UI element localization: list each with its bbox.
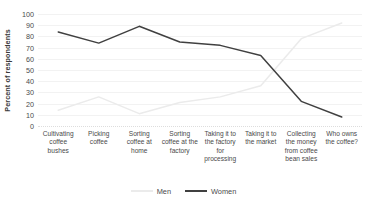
y-axis-tick-label: 50	[26, 66, 34, 75]
line-chart: Percent of respondents 01020304050607080…	[0, 0, 367, 205]
y-axis-tick-labels: 0102030405060708090100	[14, 14, 36, 126]
x-axis-category-label: Picking coffee	[79, 130, 120, 178]
legend-line-swatch	[131, 190, 153, 192]
legend-label: Women	[211, 187, 236, 196]
y-axis-tick-label: 20	[26, 99, 34, 108]
y-axis-tick-label: 90	[26, 21, 34, 30]
legend-item-men[interactable]: Men	[131, 187, 171, 196]
x-axis-category-label: Cultivating coffee bushes	[38, 130, 79, 178]
plot-area	[38, 14, 362, 126]
y-axis-title-text: Percent of respondents	[3, 29, 12, 111]
y-axis-title: Percent of respondents	[0, 0, 14, 140]
y-axis-tick-label: 70	[26, 43, 34, 52]
x-axis-category-label: Who owns the coffee?	[322, 130, 363, 178]
legend-label: Men	[157, 187, 171, 196]
y-axis-tick-label: 100	[22, 10, 34, 19]
x-axis-category-label: Sorting coffee at the factory	[160, 130, 201, 178]
y-axis-tick-label: 10	[26, 110, 34, 119]
y-axis-tick-label: 60	[26, 54, 34, 63]
x-axis-category-label: Collecting the money from coffee bean sa…	[281, 130, 322, 178]
y-axis-tick-label: 80	[26, 32, 34, 41]
y-axis-tick-label: 0	[30, 122, 34, 131]
legend-line-swatch	[185, 190, 207, 192]
x-axis-category-label: Sorting coffee at home	[119, 130, 160, 178]
x-axis-category-label: Taking it to the factory for processing	[200, 130, 241, 178]
series-lines	[38, 14, 362, 126]
gridline	[38, 126, 362, 127]
x-axis-category-labels: Cultivating coffee bushesPicking coffeeS…	[38, 130, 362, 178]
y-axis-tick-label: 40	[26, 77, 34, 86]
x-axis-category-label: Taking it to the market	[241, 130, 282, 178]
chart-legend: MenWomen	[0, 184, 367, 198]
y-axis-tick-label: 30	[26, 88, 34, 97]
legend-item-women[interactable]: Women	[185, 187, 236, 196]
